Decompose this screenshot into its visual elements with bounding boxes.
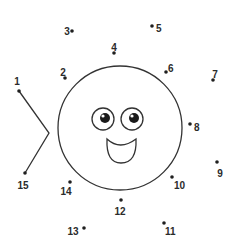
dot-marker <box>17 89 21 93</box>
eye-highlight <box>101 114 104 117</box>
dot-marker <box>188 122 192 126</box>
dot-number-label: 8 <box>194 122 200 133</box>
dot-13: 13 <box>67 226 85 237</box>
dot-to-dot-puzzle: 123456789101112131415 <box>0 0 235 250</box>
dot-marker <box>68 180 72 184</box>
dot-number-label: 14 <box>60 186 72 197</box>
dot-number-label: 15 <box>17 180 29 191</box>
smile-mouth <box>107 139 136 163</box>
dot-1: 1 <box>14 76 21 93</box>
dot-6: 6 <box>164 63 174 74</box>
dot-marker <box>162 221 166 225</box>
eye-highlight <box>130 114 133 117</box>
dot-9: 9 <box>215 160 223 178</box>
dot-marker <box>70 29 74 33</box>
dot-number-label: 6 <box>168 63 174 74</box>
dot-marker <box>150 24 154 28</box>
dot-marker <box>23 171 27 175</box>
eyes <box>92 108 143 130</box>
dot-marker <box>119 198 123 202</box>
numbered-dots: 123456789101112131415 <box>14 23 223 237</box>
dot-number-label: 3 <box>64 26 70 37</box>
dot-8: 8 <box>188 122 200 133</box>
dot-number-label: 10 <box>174 180 186 191</box>
dot-12: 12 <box>114 198 126 216</box>
pupil-icon <box>129 113 139 123</box>
dot-marker <box>170 175 174 179</box>
dot-number-label: 5 <box>156 23 162 34</box>
dot-10: 10 <box>170 175 185 190</box>
dot-number-label: 2 <box>60 67 66 78</box>
dot-number-label: 12 <box>114 206 126 217</box>
dot-14: 14 <box>60 180 72 196</box>
fish-tail-line <box>19 91 49 173</box>
fish-body-circle <box>58 66 182 190</box>
dot-number-label: 13 <box>67 226 79 237</box>
dot-3: 3 <box>64 26 74 37</box>
pupil-icon <box>100 113 110 123</box>
dot-15: 15 <box>17 171 29 190</box>
dot-5: 5 <box>150 23 162 34</box>
dot-number-label: 7 <box>212 69 218 80</box>
dot-marker <box>82 226 86 230</box>
dot-marker <box>215 160 219 164</box>
dot-11: 11 <box>162 221 176 236</box>
dot-number-label: 11 <box>165 226 176 237</box>
dot-number-label: 4 <box>111 42 117 53</box>
dot-7: 7 <box>211 69 218 82</box>
dot-2: 2 <box>60 67 67 80</box>
dot-4: 4 <box>111 42 117 55</box>
dot-number-label: 1 <box>14 76 20 87</box>
dot-number-label: 9 <box>217 168 223 179</box>
